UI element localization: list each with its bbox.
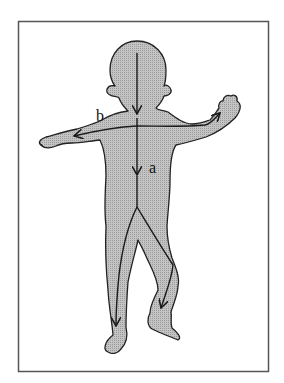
label-b: b xyxy=(96,107,104,124)
label-a: a xyxy=(149,159,156,176)
diagram-figure: b a xyxy=(0,0,284,383)
